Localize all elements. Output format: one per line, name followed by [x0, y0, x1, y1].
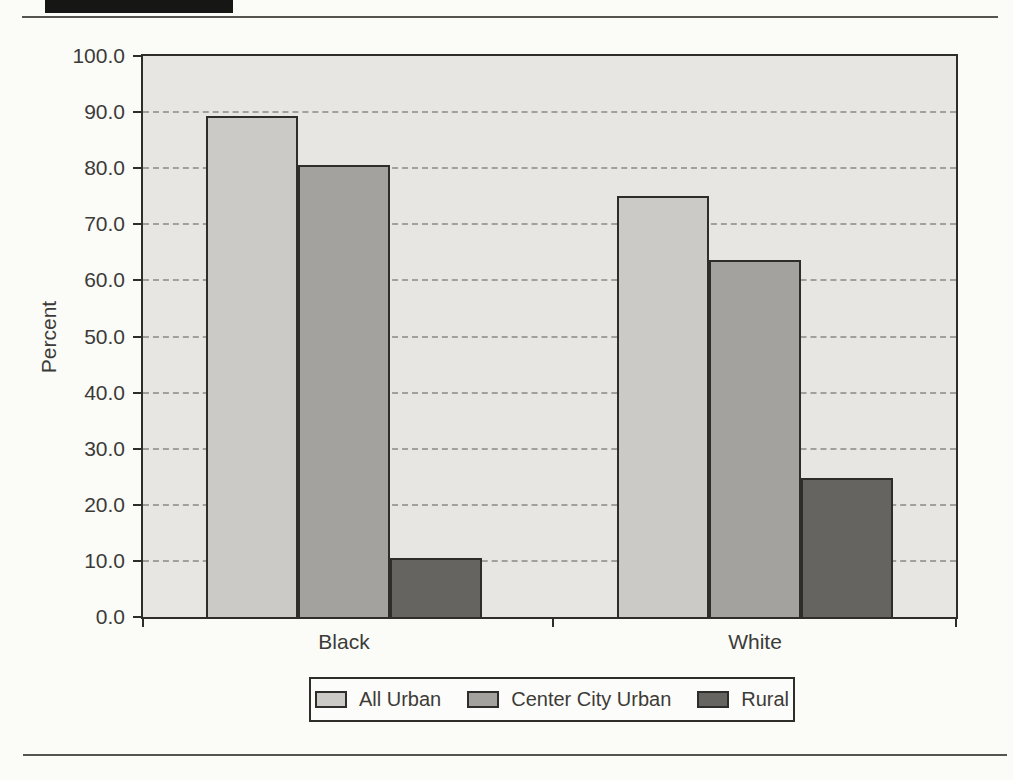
y-tick-label-20.0: 20.0: [48, 492, 125, 518]
legend-item-rural: Rural: [697, 688, 789, 711]
legend-label-all-urban: All Urban: [359, 688, 441, 711]
bar-chart-figure: Percent All UrbanCenter City UrbanRural …: [0, 0, 1013, 780]
legend-swatch-center-city-urban: [467, 691, 499, 708]
y-tick-label-50.0: 50.0: [48, 324, 125, 350]
bar-black-all-urban: [206, 116, 298, 617]
y-tick-label-100.0: 100.0: [48, 43, 125, 69]
y-tick-label-70.0: 70.0: [48, 211, 125, 237]
plot-area: [141, 54, 958, 619]
bar-black-rural: [390, 558, 482, 617]
x-tick-mark-0: [142, 619, 144, 627]
y-tick-label-30.0: 30.0: [48, 436, 125, 462]
y-tick-mark-90.0: [133, 111, 143, 113]
bar-white-rural: [801, 478, 893, 617]
y-tick-label-80.0: 80.0: [48, 155, 125, 181]
y-tick-mark-40.0: [133, 392, 143, 394]
gridline-90: [143, 111, 956, 113]
legend-label-center-city-urban: Center City Urban: [511, 688, 671, 711]
y-tick-mark-60.0: [133, 279, 143, 281]
legend-item-all-urban: All Urban: [315, 688, 441, 711]
y-tick-mark-30.0: [133, 448, 143, 450]
bar-black-center-city-urban: [298, 165, 390, 617]
page: Percent All UrbanCenter City UrbanRural …: [0, 0, 1013, 780]
y-tick-label-40.0: 40.0: [48, 380, 125, 406]
x-category-label-white: White: [675, 630, 835, 654]
legend-swatch-rural: [697, 691, 729, 708]
y-tick-label-60.0: 60.0: [48, 267, 125, 293]
y-tick-mark-70.0: [133, 223, 143, 225]
legend-swatch-all-urban: [315, 691, 347, 708]
y-tick-label-90.0: 90.0: [48, 99, 125, 125]
y-tick-mark-10.0: [133, 560, 143, 562]
y-tick-mark-100.0: [133, 55, 143, 57]
bar-white-center-city-urban: [709, 260, 801, 617]
bottom-rule: [23, 754, 1007, 756]
bar-white-all-urban: [617, 196, 709, 617]
x-category-label-black: Black: [264, 630, 424, 654]
y-tick-mark-50.0: [133, 336, 143, 338]
y-tick-label-10.0: 10.0: [48, 548, 125, 574]
y-tick-mark-80.0: [133, 167, 143, 169]
y-tick-mark-0.0: [133, 616, 143, 618]
x-tick-mark-2: [955, 619, 957, 627]
legend-item-center-city-urban: Center City Urban: [467, 688, 671, 711]
chart-legend: All UrbanCenter City UrbanRural: [309, 677, 795, 722]
y-tick-label-0.0: 0.0: [48, 604, 125, 630]
x-tick-mark-1: [552, 619, 554, 627]
legend-label-rural: Rural: [741, 688, 789, 711]
y-tick-mark-20.0: [133, 504, 143, 506]
